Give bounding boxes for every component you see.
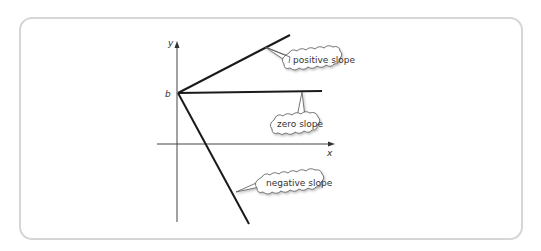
positive-slope-label: positive slope (293, 55, 356, 65)
zero-slope-label: zero slope (277, 119, 324, 129)
x-axis-label: x (326, 148, 333, 158)
x-axis (157, 142, 335, 147)
zero-slope-line (178, 91, 322, 93)
negative-slope-label: negative slope (266, 178, 333, 188)
intercept-label: b (165, 89, 171, 99)
y-axis-label: y (167, 38, 174, 48)
y-axis-arrow-icon (175, 41, 180, 48)
positive-slope-line (178, 35, 290, 93)
x-axis-arrow-icon (328, 142, 335, 147)
slope-diagram: y x b positive slope zero slope negative… (0, 0, 541, 251)
y-axis (175, 41, 180, 222)
negative-slope-line (178, 93, 249, 224)
